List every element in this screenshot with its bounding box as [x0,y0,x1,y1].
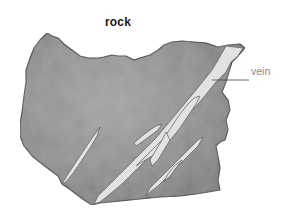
rock-shape [20,33,245,205]
vein-label: vein [251,65,270,77]
rock-illustration [0,0,292,220]
